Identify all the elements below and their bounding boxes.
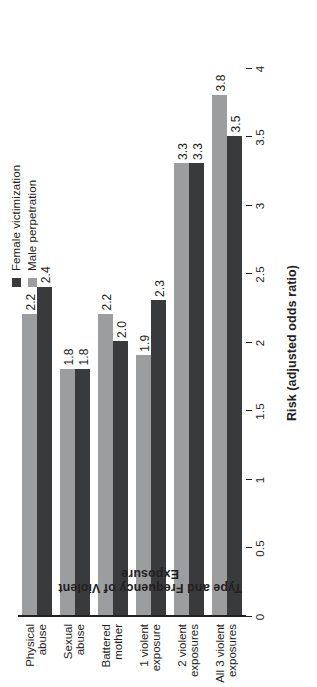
bar-value-label: 1.9 xyxy=(139,335,151,352)
bar-female-victimization xyxy=(189,163,204,615)
legend-swatch-icon xyxy=(28,278,37,287)
bar-value-label: 3.3 xyxy=(177,143,189,160)
axis-tick xyxy=(246,479,252,480)
bar-value-label: 2.3 xyxy=(154,280,166,297)
legend-item: Female victimization xyxy=(10,165,22,287)
bar-male-perpetration xyxy=(22,314,37,615)
bar-female-victimization xyxy=(227,136,242,616)
axis-tick-label: 3 xyxy=(254,203,266,210)
category-label: Physical abuse xyxy=(25,624,48,687)
axis-tick-label: 2.5 xyxy=(254,266,266,282)
category-label: All 3 violent exposures xyxy=(215,624,238,687)
axis-tick xyxy=(246,273,252,274)
bar-group: All 3 violent exposures3.83.5 xyxy=(208,69,246,617)
legend-swatch-icon xyxy=(12,278,21,287)
bar-group: Physical abuse2.22.4 xyxy=(18,69,56,617)
bar-value-label: 2.2 xyxy=(101,294,113,311)
bar-value-label: 2.4 xyxy=(40,266,52,283)
category-label: Sexual abuse xyxy=(63,624,86,687)
axis-tick xyxy=(246,136,252,137)
plot-area: 00.511.522.533.54 Physical abuse2.22.4Se… xyxy=(18,69,246,617)
value-axis-title: Risk (adjusted odds ratio) xyxy=(285,69,299,617)
axis-tick xyxy=(246,68,252,69)
bar-value-label: 3.3 xyxy=(192,143,204,160)
axis-tick xyxy=(246,547,252,548)
axis-tick xyxy=(246,616,252,617)
axis-tick xyxy=(246,410,252,411)
bar-value-label: 2.2 xyxy=(25,294,37,311)
axis-tick xyxy=(246,205,252,206)
legend-label: Male perpetration xyxy=(26,180,38,271)
category-label: 2 violent exposures xyxy=(177,624,200,687)
axis-tick-label: 1.5 xyxy=(254,403,266,419)
bar-value-label: 3.8 xyxy=(215,74,227,91)
legend-label: Female victimization xyxy=(10,165,22,271)
bar-group: 1 violent exposure1.92.3 xyxy=(132,69,170,617)
bar-value-label: 2.0 xyxy=(116,321,128,338)
axis-tick-label: 1 xyxy=(254,477,266,484)
axis-tick-label: 2 xyxy=(254,340,266,347)
category-label: 1 violent exposure xyxy=(139,624,162,687)
bar-male-perpetration xyxy=(174,163,189,615)
bar-male-perpetration xyxy=(212,95,227,616)
bar-value-label: 3.5 xyxy=(230,116,242,133)
axis-tick-label: 0 xyxy=(254,614,266,621)
bar-group: 2 violent exposures3.33.3 xyxy=(170,69,208,617)
chart-legend: Female victimizationMale perpetration xyxy=(10,165,38,287)
axis-tick-label: 3.5 xyxy=(254,129,266,145)
bar-value-label: 1.8 xyxy=(78,348,90,365)
bar-value-label: 1.8 xyxy=(63,348,75,365)
bar-group: Sexual abuse1.81.8 xyxy=(56,69,94,617)
bar-group: Battered mother2.22.0 xyxy=(94,69,132,617)
category-axis-title: Type and Frequency of Violent Exposure xyxy=(36,567,264,595)
axis-tick-label: 0.5 xyxy=(254,540,266,556)
axis-tick xyxy=(246,342,252,343)
axis-tick-label: 4 xyxy=(254,66,266,73)
legend-item: Male perpetration xyxy=(26,165,38,287)
category-label: Battered mother xyxy=(101,624,124,687)
